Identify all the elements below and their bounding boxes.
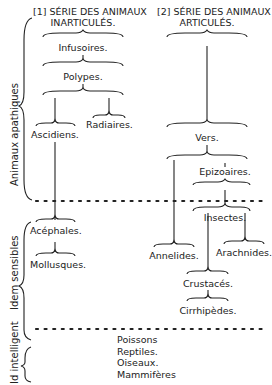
brace-apathiques (19, 18, 32, 200)
column-1-heading-line2: INARTICULÉS. (33, 17, 133, 28)
node-epizoaires: Epizoaires. (195, 166, 255, 177)
group-label-intelligent: Id intelligent (9, 321, 20, 384)
node-radiaires: Radiaires. (86, 119, 132, 130)
vertebrate-poissons: Poissons (117, 334, 158, 346)
brace-sensibles (19, 222, 31, 340)
node-cirrhipedes: Cirrhipèdes. (178, 305, 238, 316)
vertebrate-oiseaux: Oiseaux. (117, 357, 158, 369)
node-acephales: Acéphales. (30, 225, 80, 236)
group-label-apathiques: Animaux apathiques (9, 83, 20, 186)
brace-intelligent (21, 347, 31, 382)
node-vers: Vers. (180, 132, 234, 143)
node-ascidiens: Ascidiens. (30, 129, 80, 140)
vertebrate-reptiles: Reptiles. (117, 346, 158, 358)
vertebrate-mammiferes: Mammifères (117, 369, 176, 381)
node-insectes: Insectes. (195, 212, 255, 223)
column-2-heading-line2: ARTICULÉS. (157, 17, 257, 28)
node-arachnides: Arachnides. (216, 247, 272, 258)
column-2-heading-line1: [2] SÉRIE DES ANIMAUX (157, 6, 257, 17)
node-mollusques: Mollusques. (30, 259, 82, 270)
diagram-lines (0, 0, 272, 385)
node-infusoires: Infusoires. (43, 42, 123, 53)
group-label-sensibles: Idem sensibles (9, 235, 20, 310)
column-1-heading-line1: [1] SÉRIE DES ANIMAUX (33, 6, 133, 17)
node-annelides: Annelides. (148, 250, 200, 261)
lamarck-classification-diagram: Animaux apathiques Idem sensibles Id int… (0, 0, 272, 385)
node-polypes: Polypes. (43, 71, 123, 82)
node-crustaces: Crustacés. (180, 278, 236, 289)
